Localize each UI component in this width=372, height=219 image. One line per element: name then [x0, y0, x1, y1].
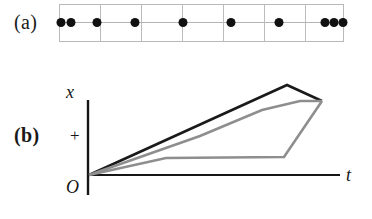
data-dot [131, 18, 140, 27]
x-axis-label: t [346, 165, 351, 186]
figure-root: (a) (b) x t O + [0, 0, 372, 219]
grid-divider-5 [305, 4, 306, 42]
origin-label: O [66, 177, 79, 198]
series-middle-trajectory [89, 101, 322, 175]
data-dot [57, 18, 66, 27]
data-dot [227, 18, 236, 27]
data-dot [179, 18, 188, 27]
grid-divider-1 [141, 4, 142, 42]
data-dot [330, 18, 339, 27]
grid-divider-3 [223, 4, 224, 42]
panel-a-dot-strip [59, 4, 344, 42]
grid-box [59, 4, 344, 42]
panel-b-plot: x t O + [0, 60, 372, 219]
data-dot [321, 18, 330, 27]
data-dot [93, 18, 102, 27]
grid-baseline [59, 22, 344, 23]
y-axis-label: x [66, 82, 74, 103]
data-dot [275, 18, 284, 27]
axes-group [88, 100, 340, 195]
grid-divider-4 [264, 4, 265, 42]
plot-svg [0, 60, 372, 219]
data-dot [67, 18, 76, 27]
panel-a-label: (a) [14, 11, 37, 34]
positive-axis-marker: + [70, 126, 80, 146]
data-dot [339, 18, 348, 27]
series-group [89, 85, 322, 175]
